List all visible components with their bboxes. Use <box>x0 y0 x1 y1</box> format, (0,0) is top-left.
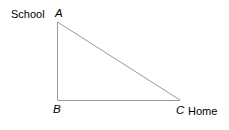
triangle-diagram: School A B C Home <box>0 0 229 130</box>
triangle-side-ac <box>58 22 181 100</box>
school-label: School <box>11 8 45 20</box>
vertex-label-c: C <box>176 104 184 116</box>
home-label: Home <box>188 105 217 117</box>
vertex-label-a: A <box>55 7 63 19</box>
vertex-label-b: B <box>53 103 61 115</box>
